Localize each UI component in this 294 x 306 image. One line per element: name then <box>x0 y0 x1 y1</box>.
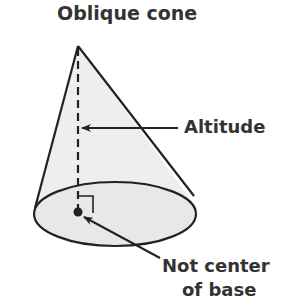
cone-base <box>34 182 196 246</box>
not-center-label-line1: Not center <box>162 255 270 276</box>
not-center-label-line2: of base <box>182 279 256 300</box>
altitude-label: Altitude <box>184 116 265 137</box>
foot-point <box>74 208 83 217</box>
diagram-title: Oblique cone <box>57 2 197 24</box>
oblique-cone-diagram: Oblique cone Altitude Not center of base <box>0 0 294 306</box>
